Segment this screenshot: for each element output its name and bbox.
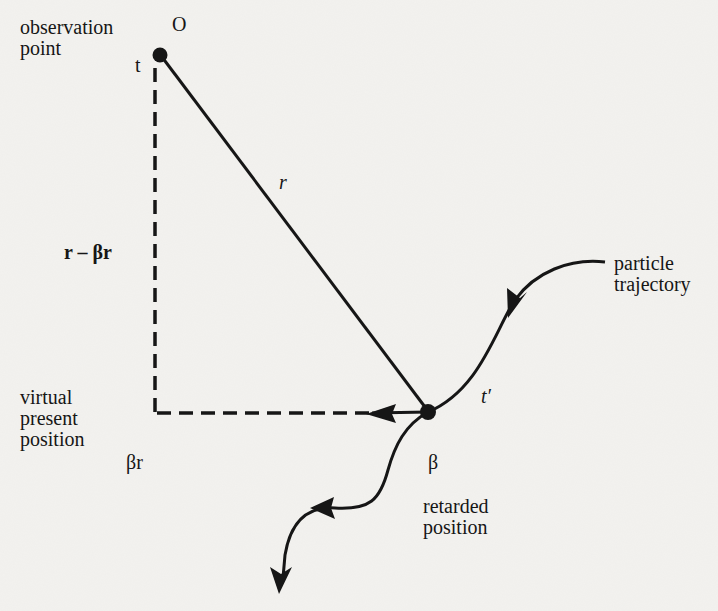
observation-point-dot	[153, 48, 168, 63]
retarded-position-diagram: observation point O t r r – βr virtual p…	[0, 0, 718, 611]
r-label: r	[279, 172, 287, 193]
retarded-position-label: retarded position	[423, 496, 489, 538]
virtual-present-position-label: virtual present position	[20, 387, 84, 450]
beta-r-label: βr	[126, 452, 143, 473]
origin-label: O	[172, 14, 186, 35]
beta-label: β	[428, 452, 438, 473]
particle-trajectory-label: particle trajectory	[614, 253, 691, 295]
r-minus-beta-r-label: r – βr	[64, 242, 112, 263]
retarded-position-dot	[420, 404, 436, 420]
observation-point-label: observation point	[20, 17, 113, 59]
t-prime-label: t′	[481, 386, 491, 407]
diagram-canvas	[0, 0, 718, 611]
time-t-label: t	[135, 55, 141, 76]
paper-texture	[0, 0, 718, 611]
